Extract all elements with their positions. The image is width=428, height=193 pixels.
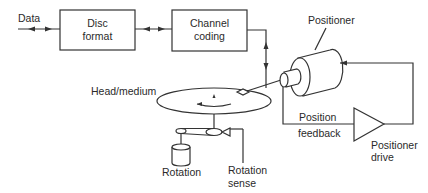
position-label: Position xyxy=(299,111,336,123)
positioner-drive-amp xyxy=(354,108,384,141)
channel-coding-label: Channel coding xyxy=(172,17,247,43)
rotation-label: Rotation xyxy=(162,166,201,178)
disc-drive-diagram: Data Disc format Channel coding Position… xyxy=(0,0,428,193)
positioner-leader xyxy=(315,28,326,50)
disc-format-line2: format xyxy=(60,30,135,43)
disc-format-label: Disc format xyxy=(60,17,135,43)
positioner-drive-label-2: drive xyxy=(371,151,394,163)
rotation-mechanism xyxy=(172,128,243,166)
drive-output-line xyxy=(340,61,413,125)
positioner-drive-label-1: Positioner xyxy=(371,139,418,151)
format-coding-connector xyxy=(135,27,172,32)
disc-platter xyxy=(157,88,271,114)
channel-coding-line2: coding xyxy=(172,30,247,43)
data-connector xyxy=(18,27,60,32)
positioner-label: Positioner xyxy=(308,14,355,26)
disc-format-line1: Disc xyxy=(60,17,135,30)
feedback-label: feedback xyxy=(298,127,341,139)
positioner-motor xyxy=(280,49,343,96)
coding-head-connector xyxy=(247,30,269,88)
head-medium-label: Head/medium xyxy=(91,85,156,97)
rotation-sense-label-2: sense xyxy=(228,177,256,189)
channel-coding-line1: Channel xyxy=(172,17,247,30)
rotation-sense-label-1: Rotation xyxy=(228,164,267,176)
data-label: Data xyxy=(18,12,40,24)
